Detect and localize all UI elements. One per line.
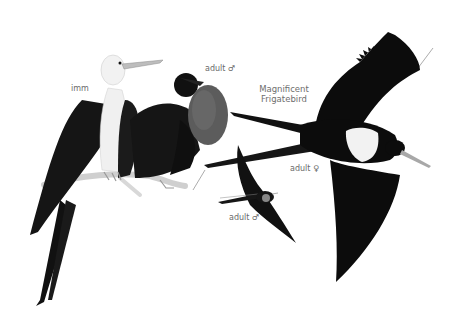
label-adult-male-flying: adult ♂ xyxy=(229,214,259,222)
leader-line xyxy=(418,48,433,68)
species-title-line2: Frigatebird xyxy=(244,94,324,104)
leader-line xyxy=(193,170,205,190)
field-guide-plate: imm adult ♂ Magnificent Frigatebird adul… xyxy=(0,0,460,329)
label-adult-female-flying: adult ♀ xyxy=(290,165,319,173)
label-adult-male-perched: adult ♂ xyxy=(205,65,235,73)
label-immature: imm xyxy=(71,85,89,93)
immature-frigatebird xyxy=(30,55,163,306)
species-title: Magnificent Frigatebird xyxy=(244,84,324,104)
adult-male-perched-frigatebird xyxy=(130,73,228,188)
species-title-line1: Magnificent xyxy=(244,84,324,94)
bird-illustrations xyxy=(0,0,460,329)
